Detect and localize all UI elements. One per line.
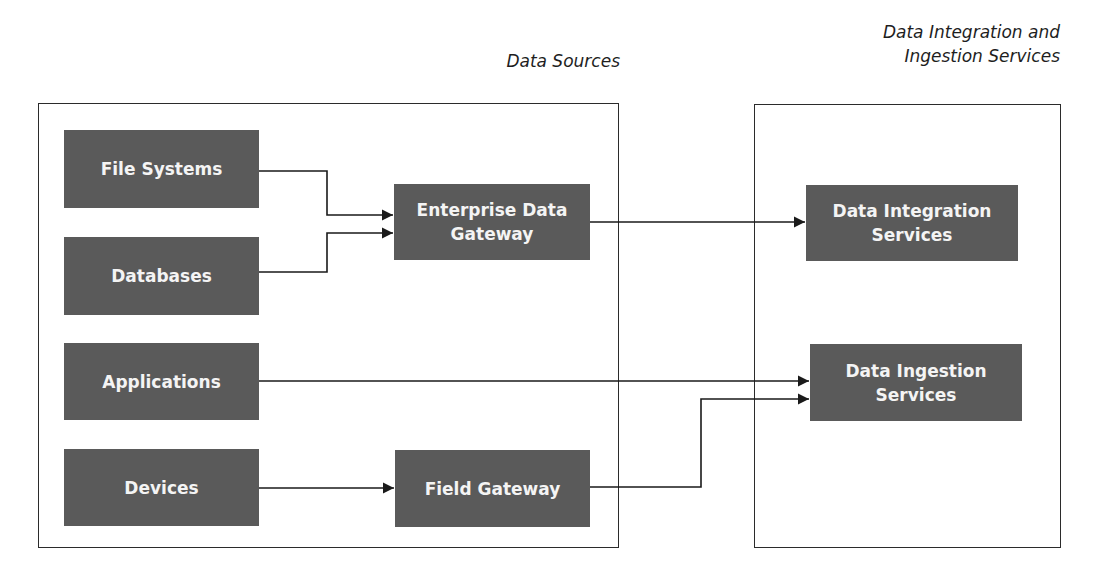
edge-databases-to-gateway: [258, 233, 393, 272]
node-databases: Databases: [64, 237, 259, 315]
node-devices-label: Devices: [124, 476, 198, 500]
node-ingestion-line2: Services: [876, 383, 957, 407]
edge-filesystems-to-gateway: [258, 171, 393, 215]
node-field-gateway-label: Field Gateway: [425, 477, 561, 501]
node-data-integration-services: Data Integration Services: [806, 185, 1018, 261]
node-enterprise-gateway-line1: Enterprise Data: [417, 198, 568, 222]
node-devices: Devices: [64, 449, 259, 526]
node-databases-label: Databases: [111, 264, 212, 288]
node-file-systems-label: File Systems: [101, 157, 223, 181]
node-applications-label: Applications: [102, 370, 221, 394]
node-data-ingestion-services: Data Ingestion Services: [810, 344, 1022, 421]
node-field-gateway: Field Gateway: [395, 450, 590, 527]
node-file-systems: File Systems: [64, 130, 259, 208]
edge-fieldgateway-to-ingestion: [590, 399, 809, 487]
node-integration-line1: Data Integration: [833, 199, 992, 223]
node-enterprise-data-gateway: Enterprise Data Gateway: [394, 184, 590, 260]
node-integration-line2: Services: [872, 223, 953, 247]
node-ingestion-line1: Data Ingestion: [845, 359, 986, 383]
node-enterprise-gateway-line2: Gateway: [451, 222, 534, 246]
node-applications: Applications: [64, 343, 259, 420]
